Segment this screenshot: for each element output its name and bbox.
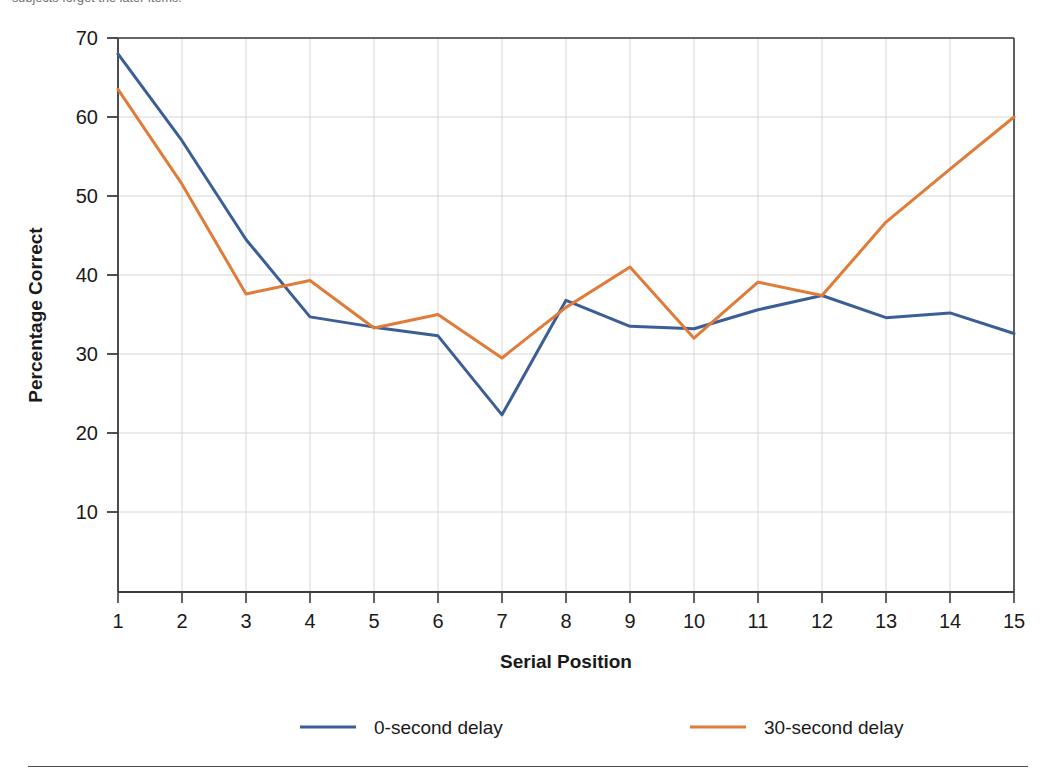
y-tick-label: 30 xyxy=(76,343,98,365)
y-tick-label: 50 xyxy=(76,185,98,207)
y-tick-label: 70 xyxy=(76,27,98,49)
x-tick-label: 5 xyxy=(368,610,379,632)
x-tick-label: 14 xyxy=(939,610,961,632)
x-tick-label: 1 xyxy=(112,610,123,632)
x-axis-ticks: 123456789101112131415 xyxy=(112,592,1025,632)
y-tick-label: 60 xyxy=(76,106,98,128)
x-tick-label: 6 xyxy=(432,610,443,632)
x-tick-label: 12 xyxy=(811,610,833,632)
legend-label: 30-second delay xyxy=(764,717,904,738)
x-tick-label: 2 xyxy=(176,610,187,632)
y-tick-label: 40 xyxy=(76,264,98,286)
footer-divider xyxy=(28,766,1028,767)
chart-canvas: 10203040506070 123456789101112131415 Per… xyxy=(0,0,1054,760)
y-tick-label: 10 xyxy=(76,501,98,523)
chart-legend: 0-second delay30-second delay xyxy=(300,717,904,738)
y-tick-label: 20 xyxy=(76,422,98,444)
legend-label: 0-second delay xyxy=(374,717,503,738)
x-tick-label: 7 xyxy=(496,610,507,632)
x-tick-label: 15 xyxy=(1003,610,1025,632)
x-tick-label: 3 xyxy=(240,610,251,632)
serial-position-line-chart: 10203040506070 123456789101112131415 Per… xyxy=(0,0,1054,760)
y-axis-title: Percentage Correct xyxy=(25,227,46,403)
x-tick-label: 4 xyxy=(304,610,315,632)
x-axis-title: Serial Position xyxy=(500,651,632,672)
x-tick-label: 8 xyxy=(560,610,571,632)
y-axis-ticks: 10203040506070 xyxy=(76,27,118,523)
x-tick-label: 11 xyxy=(748,610,769,632)
x-tick-label: 10 xyxy=(683,610,705,632)
x-tick-label: 13 xyxy=(875,610,897,632)
x-tick-label: 9 xyxy=(624,610,635,632)
